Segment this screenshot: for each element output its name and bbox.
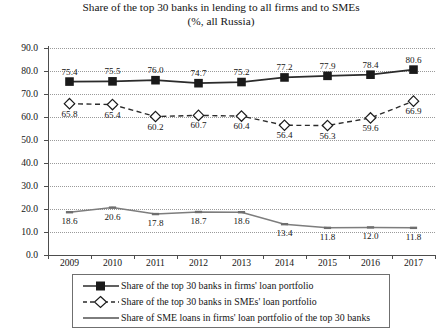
x-axis-tick-mark: [349, 255, 350, 259]
x-axis-tick-mark: [306, 255, 307, 259]
y-axis-tick-label: 10.0: [4, 227, 38, 237]
data-point-marker: [65, 77, 74, 86]
data-point-label: 13.4: [270, 229, 300, 239]
x-axis-tick-mark: [435, 255, 436, 259]
data-point-label: 11.8: [313, 233, 343, 243]
y-axis-tick-label: 50.0: [4, 135, 38, 145]
data-point-label: 18.6: [55, 217, 85, 227]
data-point-marker: [195, 211, 202, 213]
x-axis-tick-mark: [177, 255, 178, 259]
data-point-marker: [237, 78, 246, 87]
data-point-label: 80.6: [399, 56, 429, 66]
data-point-marker: [365, 113, 375, 123]
data-point-marker: [281, 223, 288, 225]
data-point-marker: [152, 213, 159, 215]
data-point-marker: [108, 77, 117, 86]
x-axis-tick-mark: [220, 255, 221, 259]
data-point-label: 59.6: [356, 124, 386, 134]
chart-title-main: Share of the top 30 banks in lending to …: [0, 1, 442, 15]
legend-item[interactable]: Share of SME loans in firms' loan portfo…: [73, 310, 389, 326]
data-point-label: 65.4: [98, 111, 128, 121]
data-point-label: 18.7: [184, 217, 214, 227]
x-axis-tick-label: 2013: [220, 258, 264, 268]
y-axis-tick-label: 80.0: [4, 66, 38, 76]
legend-label: Share of the top 30 banks in firms' loan…: [121, 279, 313, 293]
legend-label: Share of SME loans in firms' loan portfo…: [121, 311, 370, 325]
x-axis-line: [48, 255, 435, 256]
chart-title: Share of the top 30 banks in lending to …: [0, 1, 442, 28]
data-point-marker: [367, 226, 374, 228]
data-point-marker: [66, 211, 73, 213]
data-point-label: 75.4: [55, 68, 85, 78]
data-point-label: 65.8: [55, 110, 85, 120]
x-axis-tick-mark: [392, 255, 393, 259]
x-axis-tick-mark: [91, 255, 92, 259]
data-point-marker: [279, 120, 289, 130]
data-point-marker: [408, 96, 418, 106]
data-point-label: 75.5: [98, 67, 128, 77]
data-point-marker: [194, 79, 203, 88]
x-axis-tick-label: 2015: [306, 258, 350, 268]
data-point-label: 11.8: [399, 233, 429, 243]
data-point-marker: [151, 76, 160, 85]
data-point-marker: [107, 99, 117, 109]
chart-container: Share of the top 30 banks in lending to …: [0, 0, 442, 336]
x-axis-tick-label: 2016: [349, 258, 393, 268]
data-point-label: 12.0: [356, 232, 386, 242]
legend-marker-thin-line-icon: [81, 311, 121, 325]
legend-label: Share of the top 30 banks in SMEs' loan …: [121, 295, 317, 309]
data-point-marker: [64, 98, 74, 108]
data-point-label: 77.9: [313, 62, 343, 72]
y-axis-tick-label: 30.0: [4, 181, 38, 191]
chart-legend: Share of the top 30 banks in firms' loan…: [72, 274, 390, 328]
x-axis-tick-mark: [134, 255, 135, 259]
data-point-label: 76.0: [141, 66, 171, 76]
data-point-marker: [323, 72, 332, 81]
data-point-label: 78.4: [356, 61, 386, 71]
legend-item[interactable]: Share of the top 30 banks in firms' loan…: [73, 278, 389, 294]
data-point-marker: [409, 65, 418, 74]
data-point-label: 60.4: [227, 122, 257, 132]
data-point-label: 56.3: [313, 132, 343, 142]
data-point-marker: [366, 70, 375, 79]
data-point-label: 60.2: [141, 123, 171, 133]
y-axis-tick-label: 20.0: [4, 204, 38, 214]
data-point-label: 56.4: [270, 131, 300, 141]
legend-item[interactable]: Share of the top 30 banks in SMEs' loan …: [73, 294, 389, 310]
y-axis-tick-label: 70.0: [4, 89, 38, 99]
x-axis-tick-label: 2017: [392, 258, 436, 268]
x-axis-tick-label: 2012: [177, 258, 221, 268]
y-axis-tick-label: 40.0: [4, 158, 38, 168]
data-point-marker: [193, 110, 203, 120]
data-point-marker: [238, 211, 245, 213]
x-axis-tick-label: 2009: [48, 258, 92, 268]
y-axis-tick-label: 90.0: [4, 43, 38, 53]
data-point-marker: [280, 73, 289, 82]
data-point-marker: [150, 111, 160, 121]
data-point-label: 66.9: [399, 107, 429, 117]
data-point-label: 18.6: [227, 217, 257, 227]
data-point-marker: [324, 227, 331, 229]
x-axis-tick-mark: [263, 255, 264, 259]
data-point-label: 77.2: [270, 63, 300, 73]
data-point-label: 75.2: [227, 68, 257, 78]
y-axis-tick-label: 0.0: [4, 250, 38, 260]
data-point-marker: [236, 111, 246, 121]
data-point-label: 20.6: [98, 213, 128, 223]
x-axis-tick-label: 2011: [134, 258, 178, 268]
x-axis-tick-mark: [48, 255, 49, 259]
chart-title-subtitle: (%, all Russia): [0, 15, 442, 29]
legend-marker-filled-square-icon: [81, 279, 121, 293]
data-point-label: 17.8: [141, 219, 171, 229]
x-axis-tick-label: 2010: [91, 258, 135, 268]
y-axis-tick-label: 60.0: [4, 112, 38, 122]
data-point-marker: [410, 227, 417, 229]
data-point-label: 60.7: [184, 121, 214, 131]
x-axis-tick-label: 2014: [263, 258, 307, 268]
data-point-marker: [322, 120, 332, 130]
data-point-marker: [109, 206, 116, 208]
legend-marker-open-diamond-icon: [81, 295, 121, 309]
data-point-label: 74.7: [184, 69, 214, 79]
